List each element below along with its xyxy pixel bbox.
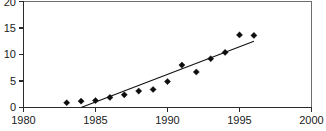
data-point — [78, 98, 84, 104]
data-point — [236, 32, 242, 38]
x-tick-label-1995: 1995 — [227, 114, 251, 126]
plot-frame — [24, 2, 312, 108]
y-axis-tick-labels: 0 5 10 15 20 — [4, 0, 16, 113]
y-axis-ticks — [19, 2, 24, 108]
y-tick-label-0: 0 — [10, 101, 16, 113]
x-tick-label-1990: 1990 — [155, 114, 179, 126]
data-point — [251, 32, 257, 38]
data-point — [193, 69, 199, 75]
x-axis-tick-labels: 1980 1985 1990 1995 2000 — [11, 114, 323, 126]
data-point — [164, 78, 170, 84]
data-point — [150, 86, 156, 92]
x-tick-label-1985: 1985 — [83, 114, 107, 126]
x-axis-ticks — [24, 108, 312, 113]
x-tick-label-1980: 1980 — [11, 114, 35, 126]
data-point — [179, 62, 185, 68]
data-point — [121, 92, 127, 98]
y-tick-label-15: 15 — [4, 22, 16, 34]
y-tick-label-20: 20 — [4, 0, 16, 8]
frame-border — [24, 2, 312, 108]
scatter-plot: 0 5 10 15 20 1980 1985 1990 1995 2000 — [0, 0, 326, 131]
data-point — [136, 88, 142, 94]
y-tick-label-10: 10 — [4, 48, 16, 60]
y-tick-label-5: 5 — [10, 75, 16, 87]
scatter-markers — [64, 32, 257, 106]
chart-figure: 0 5 10 15 20 1980 1985 1990 1995 2000 — [0, 0, 326, 131]
data-point — [222, 49, 228, 55]
data-point — [64, 100, 70, 106]
x-tick-label-2000: 2000 — [299, 114, 323, 126]
